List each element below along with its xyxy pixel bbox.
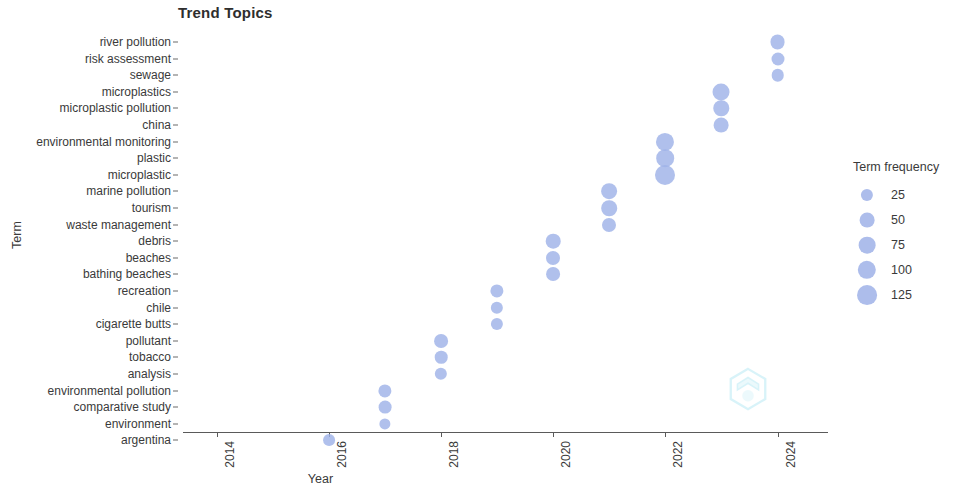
data-point [601,184,617,200]
y-axis-tick-label: chile [146,301,171,315]
x-axis-line [183,432,828,433]
y-axis-tick-label: marine pollution [86,184,171,198]
data-point [601,200,617,216]
x-axis-tick-mark [217,432,218,437]
y-axis-tick-mark [173,324,178,325]
legend-entry-label: 125 [891,288,912,302]
y-axis-tick-label: environment [105,417,171,431]
y-axis-tick-label: cigarette butts [96,317,171,331]
x-axis-title-text: Year [308,472,333,486]
y-axis-tick-mark [173,340,178,341]
y-axis-tick-mark [173,174,178,175]
legend-key-marker [857,285,877,305]
y-axis-tick-mark [173,357,178,358]
y-axis-tick-label: tobacco [129,350,171,364]
y-axis-tick-mark [173,241,178,242]
data-point [546,267,560,281]
y-axis-tick-label: analysis [128,367,171,381]
y-axis-tick-mark [173,257,178,258]
chart-title: Trend Topics [178,4,273,21]
data-point [771,69,784,82]
y-axis-tick-label: debris [138,234,171,248]
data-point [379,401,392,414]
y-axis-tick-mark [173,307,178,308]
x-axis-tick-mark [441,432,442,437]
data-point [323,434,335,446]
data-point [770,35,785,50]
y-axis-tick-mark [173,374,178,375]
y-axis-tick-mark [173,224,178,225]
data-point [713,83,730,100]
y-axis-tick-mark [173,125,178,126]
legend-entry: 25 [853,183,961,208]
y-axis-tick-mark [173,291,178,292]
y-axis-tick-mark [173,390,178,391]
y-axis-tick-mark [173,423,178,424]
legend-entry-label: 25 [891,188,905,202]
x-axis-title: Year [0,472,961,486]
y-axis-tick-label: recreation [118,284,171,298]
data-point [435,351,448,364]
y-axis-tick-mark [173,407,178,408]
y-axis-tick-label: bathing beaches [83,267,171,281]
legend-entries: 255075100125 [853,183,961,308]
y-axis-tick-mark [173,108,178,109]
x-axis-tick-mark [778,432,779,437]
trend-topics-chart: Trend Topics Term river pollutionrisk as… [0,0,961,493]
x-axis-tick-label: 2014 [223,441,237,468]
data-point [655,165,675,185]
legend-key-marker [859,237,876,254]
y-axis-tick-mark [173,191,178,192]
y-axis-tick-label: tourism [132,201,171,215]
y-axis-tick-mark [173,141,178,142]
plot-area [183,22,828,434]
y-axis-tick-label: comparative study [74,400,171,414]
x-axis-tick-mark [553,432,554,437]
y-axis-tick-label: risk assessment [85,52,171,66]
y-axis-tick-label: environmental pollution [48,384,171,398]
y-axis-tick-label: environmental monitoring [36,135,171,149]
x-axis-tick-label: 2024 [784,441,798,468]
y-axis-tick-label: waste management [66,218,171,232]
y-axis-tick-mark [173,58,178,59]
x-axis-tick-label: 2022 [671,441,685,468]
data-point [546,251,560,265]
data-point [602,218,616,232]
legend-entry-label: 75 [891,238,905,252]
y-axis-tick-mark [173,274,178,275]
y-axis-tick-label: pollutant [126,334,171,348]
x-axis-tick-label: 2016 [335,441,349,468]
legend-entry: 100 [853,258,961,283]
data-point [714,118,729,133]
y-axis-tick-label: microplastic pollution [60,101,171,115]
data-point [656,133,674,151]
legend-key-marker [860,213,875,228]
legend-key-marker [861,189,873,201]
y-axis-tick-label: china [142,118,171,132]
y-axis-tick-mark [173,42,178,43]
data-point [771,52,784,65]
y-axis-tick-label: plastic [137,151,171,165]
y-axis-tick-mark [173,91,178,92]
y-axis-tick-labels: river pollutionrisk assessmentsewagemicr… [0,0,181,493]
data-point [434,334,448,348]
y-axis-tick-label: beaches [126,251,171,265]
legend-entry: 75 [853,233,961,258]
y-axis-tick-label: river pollution [100,35,171,49]
data-point [546,234,561,249]
y-axis-tick-label: microplastic [108,168,171,182]
legend: Term frequency 255075100125 [853,160,961,308]
x-axis-tick-mark [665,432,666,437]
y-axis-tick-mark [173,208,178,209]
legend-entry-label: 50 [891,213,905,227]
y-axis-tick-label: argentina [121,433,171,447]
legend-entry: 50 [853,208,961,233]
y-axis-tick-mark [173,75,178,76]
y-axis-tick-label: microplastics [102,85,171,99]
y-axis-tick-label: sewage [130,68,171,82]
x-axis-tick-label: 2020 [559,441,573,468]
y-axis-tick-mark [173,158,178,159]
legend-title: Term frequency [853,160,961,174]
legend-entry-label: 100 [891,263,912,277]
x-axis-tick-label: 2018 [447,441,461,468]
